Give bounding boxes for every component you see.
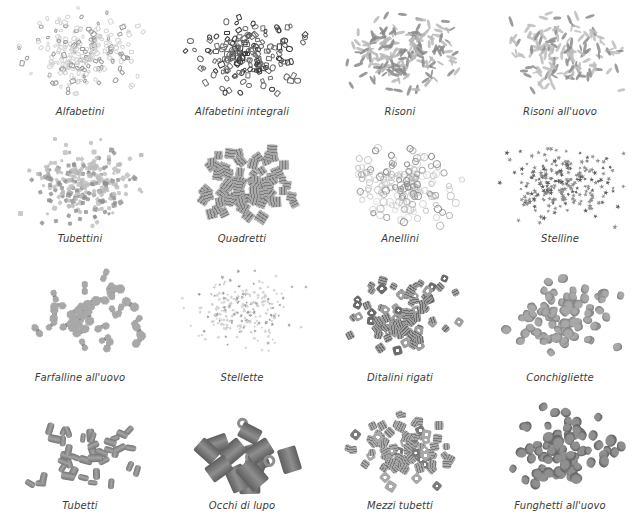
pasta-piece <box>222 318 226 322</box>
pasta-piece <box>89 37 94 41</box>
pasta-piece <box>573 10 580 21</box>
pasta-piece <box>224 148 235 159</box>
pasta-piece <box>84 210 88 214</box>
pasta-piece <box>516 218 521 223</box>
pasta-piece <box>458 176 465 183</box>
pasta-piece <box>210 71 217 79</box>
pasta-piece <box>59 84 63 89</box>
pasta-piece <box>523 72 532 78</box>
pasta-caption: Conchigliette <box>480 372 638 383</box>
pasta-piece <box>413 214 422 223</box>
pasta-piece <box>279 187 287 195</box>
pasta-piece <box>519 179 525 185</box>
pasta-piece <box>385 88 394 92</box>
pasta-piece <box>533 178 538 183</box>
pasta-piece <box>135 23 142 29</box>
pasta-piece <box>610 189 615 194</box>
pasta-piece <box>182 48 188 54</box>
pasta-piece <box>252 281 256 285</box>
pasta-piece <box>236 284 242 290</box>
pasta-piece <box>45 45 50 51</box>
pasta-piece <box>371 63 379 66</box>
pasta-piece <box>601 312 610 322</box>
pasta-piece <box>273 273 279 279</box>
pasta-piece <box>411 88 421 92</box>
pasta-piece <box>112 202 117 207</box>
pasta-piece <box>75 60 80 64</box>
pasta-piece <box>585 456 597 469</box>
pasta-piece <box>210 301 216 307</box>
pasta-piece <box>119 44 125 50</box>
pasta-piece <box>434 421 443 430</box>
pasta-piece <box>612 223 619 230</box>
pasta-piece <box>53 137 57 141</box>
pasta-piece <box>119 70 125 76</box>
pasta-piece <box>58 201 63 206</box>
pasta-piece <box>595 158 601 164</box>
pasta-piece <box>597 183 605 191</box>
pasta-piece <box>239 318 244 323</box>
pasta-piece <box>234 334 238 338</box>
pasta-piece <box>593 213 598 218</box>
pasta-piece <box>107 154 113 160</box>
pasta-piece <box>227 277 233 283</box>
pasta-piece <box>253 328 258 333</box>
pasta-piece <box>30 323 44 338</box>
pasta-piece <box>66 86 70 91</box>
pasta-caption: Tubettini <box>0 233 160 244</box>
pasta-piece <box>445 211 453 219</box>
pasta-piece <box>597 52 600 60</box>
pasta-piece <box>518 421 528 430</box>
pasta-piece <box>257 313 262 318</box>
pasta-piece <box>267 196 277 206</box>
pasta-piece <box>411 297 419 305</box>
pasta-piece <box>600 165 606 171</box>
pasta-piece <box>441 324 451 334</box>
pasta-piece <box>224 69 228 74</box>
pasta-piece <box>59 29 64 33</box>
pasta-piece <box>372 15 380 24</box>
pasta-piece <box>81 201 85 205</box>
pasta-piece <box>454 317 465 328</box>
pasta-piece <box>518 148 523 153</box>
pasta-piece <box>79 433 86 443</box>
pasta-piece <box>392 88 403 94</box>
pasta-piece <box>197 309 203 315</box>
pasta-piece <box>582 207 589 214</box>
pasta-piece <box>550 408 561 418</box>
pasta-piece <box>423 208 430 215</box>
pasta-piece <box>46 35 51 39</box>
pasta-piece <box>614 203 621 210</box>
pasta-piece <box>259 187 269 197</box>
pasta-piece <box>35 39 41 44</box>
pasta-photo <box>14 266 146 358</box>
pasta-photo <box>176 266 308 358</box>
pasta-piece <box>46 73 52 79</box>
pasta-piece <box>277 313 281 317</box>
pasta-piece <box>59 159 63 163</box>
pasta-piece <box>383 11 390 20</box>
pasta-photo <box>494 398 626 490</box>
pasta-piece <box>433 201 439 207</box>
pasta-piece <box>584 159 589 164</box>
pasta-piece <box>239 313 243 317</box>
pasta-piece <box>41 183 45 187</box>
pasta-piece <box>76 79 80 85</box>
pasta-piece <box>266 285 270 289</box>
pasta-piece <box>226 293 230 297</box>
pasta-piece <box>578 158 586 166</box>
pasta-piece <box>259 325 264 330</box>
pasta-piece <box>106 206 111 211</box>
pasta-piece <box>118 162 123 167</box>
pasta-piece <box>373 330 383 340</box>
pasta-piece <box>93 321 110 333</box>
pasta-piece <box>75 157 80 162</box>
pasta-piece <box>78 338 89 352</box>
pasta-piece <box>617 291 626 300</box>
pasta-piece <box>416 18 427 22</box>
pasta-piece <box>234 37 239 43</box>
pasta-piece <box>573 300 583 309</box>
pasta-piece <box>116 31 123 37</box>
pasta-piece <box>66 213 71 218</box>
pasta-piece <box>600 200 605 205</box>
